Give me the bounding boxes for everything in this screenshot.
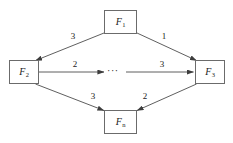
node-fn-label: Fn: [116, 117, 125, 127]
node-f2-label: F2: [19, 67, 28, 77]
node-f3[interactable]: F3: [195, 60, 225, 84]
node-f1[interactable]: F1: [104, 10, 137, 34]
edge-label-fn-f3: 2: [139, 92, 151, 101]
node-fn[interactable]: Fn: [104, 110, 137, 134]
edge-label-f2-f3-right: 3: [156, 60, 168, 69]
edge-label-f1-f3: 1: [158, 32, 170, 41]
node-f1-label: F1: [116, 17, 125, 27]
middle-ellipsis: ···: [107, 66, 119, 76]
edge-label-f2-f3-left: 2: [69, 60, 81, 69]
edge-label-f1-f2: 3: [67, 32, 79, 41]
node-f2[interactable]: F2: [9, 60, 39, 84]
edge-label-f2-fn: 3: [87, 92, 99, 101]
node-f3-label: F3: [205, 67, 214, 77]
diagram-canvas: F1 F2 F3 Fn 3 1 2 3 3 2 ···: [0, 0, 233, 143]
